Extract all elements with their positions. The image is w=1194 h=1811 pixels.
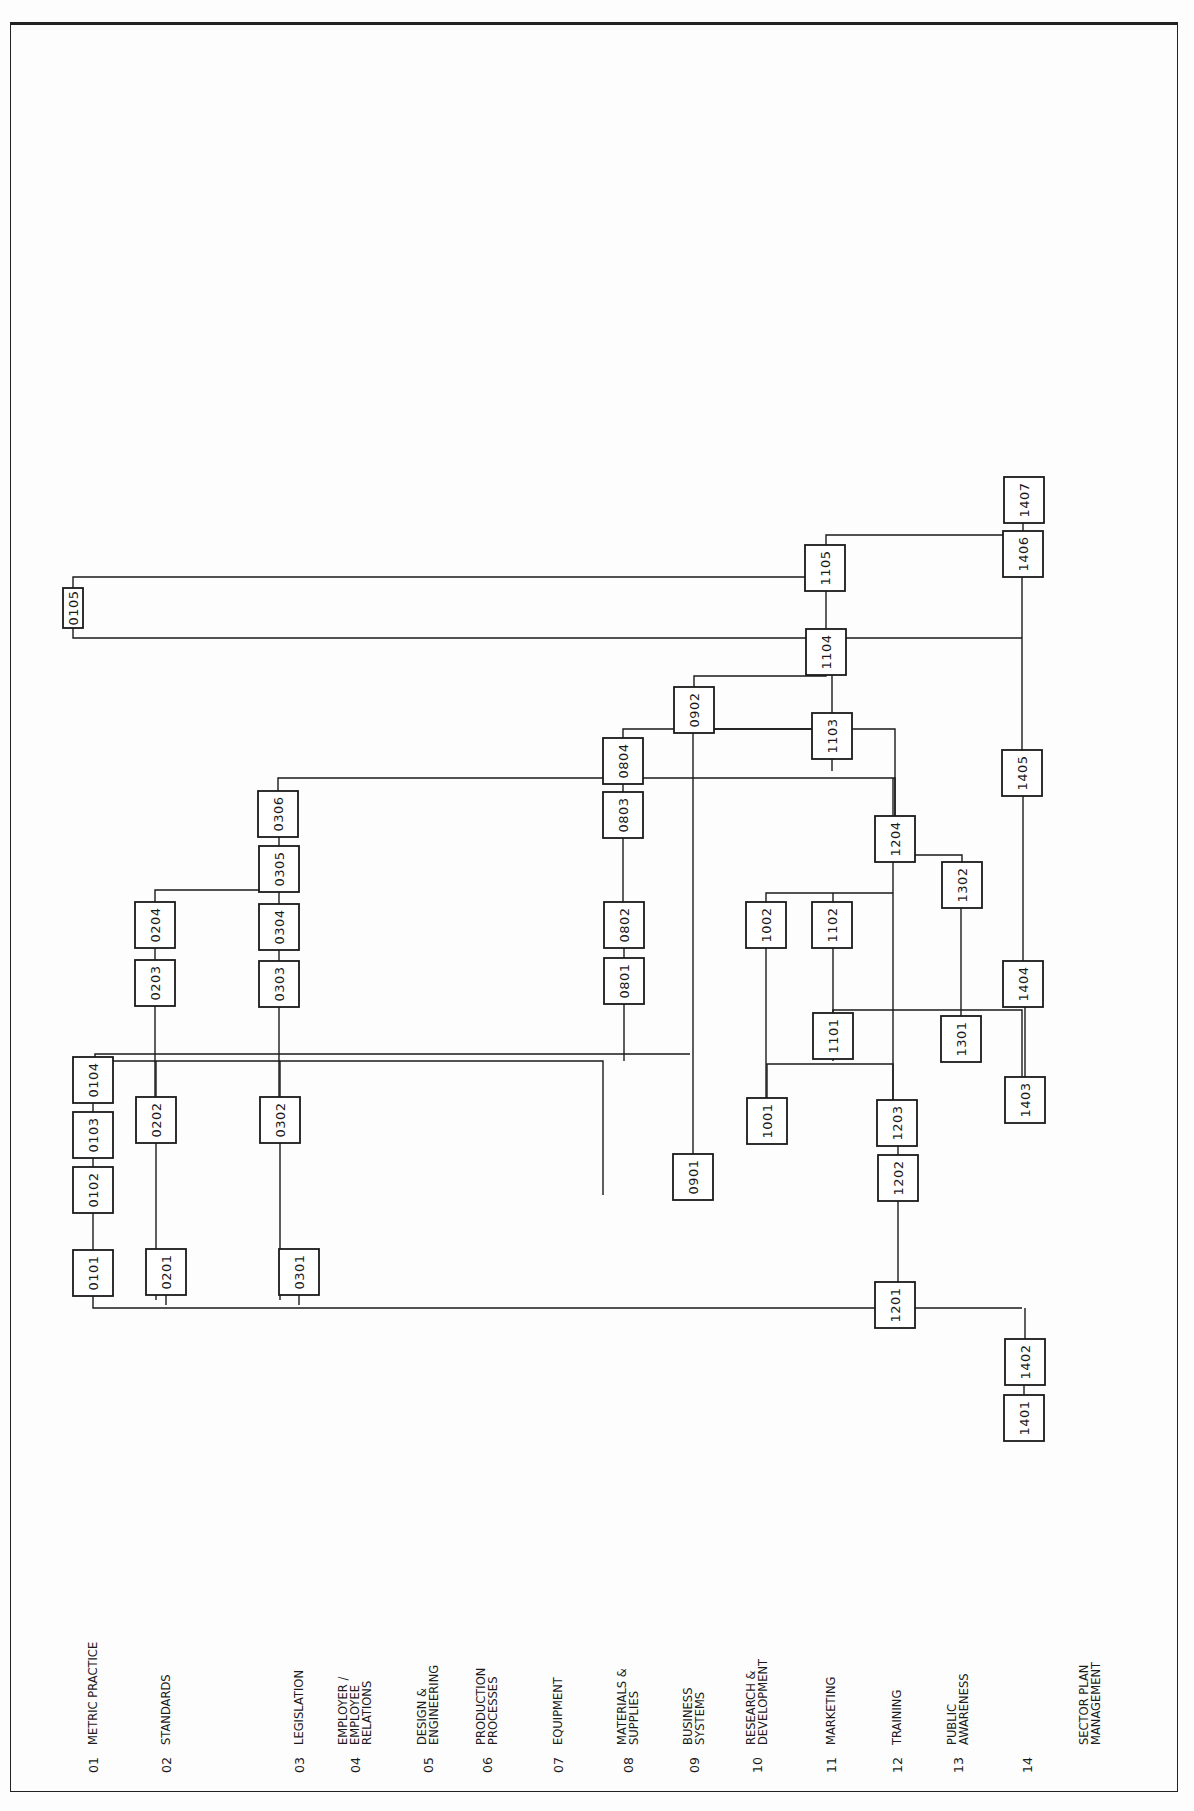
lane-number: 10 (750, 1757, 765, 1773)
lane-label-09: 09BUSINESSSYSTEMS (681, 1688, 707, 1773)
activity-node-1105[interactable]: 1105 (805, 545, 845, 591)
node-id-label: 0304 (272, 909, 287, 944)
activity-node-1202[interactable]: 1202 (878, 1155, 918, 1201)
activity-node-1302[interactable]: 1302 (942, 862, 982, 908)
connector-line (73, 628, 1022, 638)
lane-name: LEGISLATION (292, 1670, 306, 1745)
lane-label-01: 01METRIC PRACTICE (86, 1642, 101, 1773)
activity-node-1402[interactable]: 1402 (1005, 1339, 1045, 1385)
activity-node-0302[interactable]: 0302 (260, 1097, 300, 1143)
activity-node-1204[interactable]: 1204 (875, 816, 915, 862)
node-id-label: 0301 (292, 1254, 307, 1289)
activity-node-0803[interactable]: 0803 (603, 792, 643, 838)
lane-number: 13 (951, 1757, 966, 1773)
activity-node-1203[interactable]: 1203 (877, 1100, 917, 1146)
activity-node-1102[interactable]: 1102 (812, 902, 852, 948)
node-id-label: 0804 (616, 743, 631, 778)
activity-node-0804[interactable]: 0804 (603, 738, 643, 784)
lane-number: 01 (86, 1757, 101, 1773)
lane-label-11: 11MARKETING (824, 1676, 839, 1772)
activity-node-1401[interactable]: 1401 (1004, 1395, 1044, 1441)
activity-node-0104[interactable]: 0104 (73, 1057, 113, 1103)
lane-number: 02 (159, 1757, 174, 1773)
node-id-label: 1401 (1017, 1400, 1032, 1435)
activity-node-1101[interactable]: 1101 (813, 1013, 853, 1059)
lane-name: EQUIPMENT (551, 1676, 565, 1745)
connector-lines (73, 522, 1025, 1396)
lane-label-sector-plan: SECTOR PLANMANAGEMENT (1077, 1661, 1103, 1745)
activity-node-0301[interactable]: 0301 (279, 1249, 319, 1295)
lane-number: 04 (348, 1757, 363, 1773)
lane-number: 05 (421, 1757, 436, 1773)
activity-node-0305[interactable]: 0305 (259, 846, 299, 892)
node-id-label: 0101 (86, 1255, 101, 1290)
lane-label-12: 12TRAINING (890, 1690, 905, 1773)
node-id-label: 1001 (760, 1103, 775, 1138)
lane-number: 06 (480, 1757, 495, 1773)
lane-label-13: 13PUBLICAWARENESS (945, 1673, 971, 1773)
node-id-label: 0103 (86, 1117, 101, 1152)
node-id-label: 1101 (826, 1018, 841, 1053)
node-id-label: 0303 (272, 966, 287, 1001)
connector-line (826, 532, 1023, 546)
node-id-label: 1201 (888, 1287, 903, 1322)
lane-name: MARKETING (824, 1676, 838, 1745)
activity-node-1001[interactable]: 1001 (747, 1098, 787, 1144)
activity-node-0105[interactable]: 0105 (63, 588, 83, 628)
connector-line (833, 1010, 1022, 1078)
lane-number: 09 (687, 1757, 702, 1773)
node-id-label: 1204 (888, 821, 903, 856)
activity-node-0303[interactable]: 0303 (259, 961, 299, 1007)
connector-line (73, 577, 826, 590)
activity-node-0102[interactable]: 0102 (73, 1167, 113, 1213)
activity-node-1104[interactable]: 1104 (806, 629, 846, 675)
activity-node-0901[interactable]: 0901 (673, 1154, 713, 1200)
activity-node-1103[interactable]: 1103 (812, 713, 852, 759)
activity-node-1403[interactable]: 1403 (1005, 1077, 1045, 1123)
activity-node-0801[interactable]: 0801 (604, 958, 644, 1004)
lane-label-04: 04EMPLOYER /EMPLOYEERELATIONS (336, 1677, 374, 1773)
node-id-label: 0204 (148, 907, 163, 942)
node-id-label: 0105 (66, 590, 81, 625)
activity-node-1201[interactable]: 1201 (875, 1282, 915, 1328)
lane-label-05: 05DESIGN &ENGINEERING (415, 1665, 441, 1773)
lane-name: RELATIONS (360, 1681, 374, 1745)
lane-name: TRAINING (890, 1690, 904, 1746)
activity-node-0202[interactable]: 0202 (136, 1097, 176, 1143)
node-id-label: 1404 (1016, 966, 1031, 1001)
activity-node-0103[interactable]: 0103 (73, 1112, 113, 1158)
node-id-label: 1403 (1018, 1082, 1033, 1117)
lane-name: STANDARDS (159, 1674, 173, 1745)
lane-number: 11 (824, 1757, 839, 1773)
node-id-label: 1203 (890, 1105, 905, 1140)
connector-line (278, 778, 895, 817)
lane-number: 12 (890, 1757, 905, 1773)
node-id-label: 1402 (1018, 1344, 1033, 1379)
node-id-label: 0201 (159, 1254, 174, 1289)
connector-line (95, 1054, 690, 1058)
activity-node-1002[interactable]: 1002 (746, 902, 786, 948)
activity-node-0203[interactable]: 0203 (135, 960, 175, 1006)
lane-name: SUPPLIES (627, 1691, 641, 1745)
lane-number: 03 (292, 1757, 307, 1773)
connector-line (694, 674, 826, 688)
activity-node-1404[interactable]: 1404 (1003, 961, 1043, 1007)
node-id-label: 0901 (686, 1159, 701, 1194)
activity-node-0306[interactable]: 0306 (258, 791, 298, 837)
activity-node-0802[interactable]: 0802 (604, 902, 644, 948)
node-id-label: 0801 (617, 963, 632, 998)
activity-node-1405[interactable]: 1405 (1002, 750, 1042, 796)
activity-node-1407[interactable]: 1407 (1004, 477, 1044, 523)
connector-line (767, 1064, 893, 1101)
activity-node-1406[interactable]: 1406 (1003, 531, 1043, 577)
activity-node-0204[interactable]: 0204 (135, 902, 175, 948)
activity-node-1301[interactable]: 1301 (941, 1016, 981, 1062)
lane-label-08: 08MATERIALS &SUPPLIES (615, 1668, 641, 1773)
lane-name: ENGINEERING (427, 1665, 441, 1745)
node-id-label: 0802 (617, 907, 632, 942)
activity-node-0201[interactable]: 0201 (146, 1249, 186, 1295)
activity-node-0101[interactable]: 0101 (73, 1250, 113, 1296)
node-id-label: 1301 (954, 1021, 969, 1056)
activity-node-0902[interactable]: 0902 (674, 687, 714, 733)
activity-node-0304[interactable]: 0304 (259, 904, 299, 950)
